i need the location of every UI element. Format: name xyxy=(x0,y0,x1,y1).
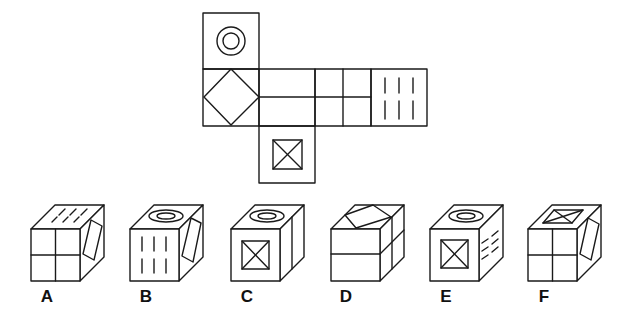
option-f-cube[interactable] xyxy=(528,205,601,281)
diamond-icon xyxy=(204,69,259,125)
inner-circle-icon xyxy=(223,33,239,49)
option-f-label: F xyxy=(529,287,559,307)
option-c-label: C xyxy=(232,287,262,307)
outer-circle-icon xyxy=(217,27,245,55)
option-b-label: B xyxy=(131,287,161,307)
puzzle-stage: A B C D E F xyxy=(0,0,634,321)
option-b-cube[interactable] xyxy=(130,205,203,281)
dashes-icon xyxy=(385,78,413,119)
option-d-label: D xyxy=(331,287,361,307)
option-a-cube[interactable] xyxy=(31,205,104,281)
square-x-icon xyxy=(273,140,302,169)
net-face-bottom xyxy=(259,126,315,183)
net-face-top xyxy=(203,13,259,69)
net-face-center-2 xyxy=(315,69,371,126)
cube-front-face xyxy=(331,229,380,281)
option-e-label: E xyxy=(431,287,461,307)
puzzle-diagram xyxy=(0,0,634,321)
net-face-right xyxy=(371,69,427,126)
cube-net xyxy=(203,13,427,183)
option-e-cube[interactable] xyxy=(430,205,503,281)
net-face-left xyxy=(203,69,259,126)
net-face-center-1 xyxy=(259,69,315,126)
option-d-cube[interactable] xyxy=(331,205,404,281)
option-c-cube[interactable] xyxy=(231,205,304,281)
option-a-label: A xyxy=(32,287,62,307)
